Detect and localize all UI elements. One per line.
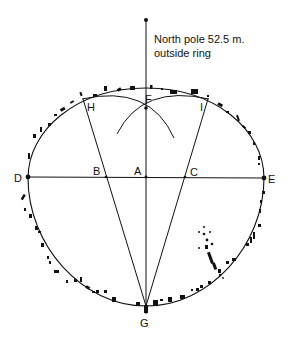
line-g-h bbox=[83, 99, 146, 306]
label-e: E bbox=[268, 173, 275, 185]
stone-ring-diagram: A B C D E F G H I North pole 52.5 m. out… bbox=[0, 0, 291, 339]
north-pole-marker bbox=[144, 18, 148, 22]
label-c: C bbox=[190, 166, 198, 178]
label-a: A bbox=[134, 165, 142, 177]
label-g: G bbox=[140, 317, 149, 329]
label-b: B bbox=[93, 165, 100, 177]
diagram-canvas: A B C D E F G H I North pole 52.5 m. out… bbox=[0, 0, 291, 339]
point-e-marker bbox=[262, 176, 267, 181]
line-g-i bbox=[146, 99, 208, 306]
label-i: I bbox=[200, 101, 203, 113]
ring-stones bbox=[28, 85, 260, 165]
point-f-marker bbox=[144, 106, 148, 110]
label-d: D bbox=[14, 172, 22, 184]
north-pole-note-line1: North pole 52.5 m. bbox=[154, 33, 245, 45]
point-d-marker bbox=[26, 175, 31, 180]
label-h: H bbox=[87, 101, 95, 113]
point-a-marker bbox=[145, 176, 148, 179]
arc-from-i bbox=[117, 96, 209, 134]
north-pole-note-line2: outside ring bbox=[154, 47, 211, 59]
label-f: F bbox=[145, 93, 152, 105]
